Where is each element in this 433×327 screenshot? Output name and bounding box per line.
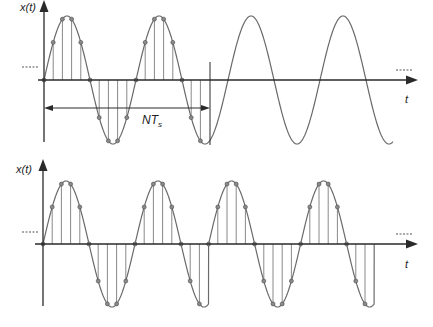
- sample-point: [171, 40, 175, 44]
- sample-point: [106, 139, 110, 143]
- window-length-label: NTs: [142, 113, 162, 129]
- sample-point: [335, 205, 339, 209]
- sample-point: [363, 302, 367, 306]
- window-label-subscript: s: [158, 120, 162, 129]
- sample-point: [262, 279, 266, 283]
- top-plot: x(t) t NTs: [19, 0, 418, 145]
- sample-point: [289, 279, 293, 283]
- sample-point: [216, 205, 220, 209]
- sample-point: [60, 17, 64, 21]
- sample-point: [125, 116, 129, 120]
- bottom-x-label: t: [405, 258, 409, 270]
- bottom-plot: x(t) t: [15, 159, 418, 307]
- sample-point: [234, 182, 238, 186]
- sample-point: [70, 17, 74, 21]
- sample-point: [51, 40, 55, 44]
- dimension-arrow-left-icon: [44, 105, 53, 111]
- sample-point: [189, 116, 193, 120]
- sample-point: [143, 40, 147, 44]
- sample-point: [142, 205, 146, 209]
- sample-point: [243, 205, 247, 209]
- sample-point: [96, 279, 100, 283]
- bottom-time-axis-arrow-icon: [406, 240, 418, 249]
- sample-point: [116, 139, 120, 143]
- bottom-y-label: x(t): [15, 163, 32, 175]
- dimension-arrow-right-icon: [201, 105, 210, 111]
- leakage-figure: x(t) t NTs x(t) t: [0, 0, 433, 327]
- sample-point: [225, 182, 229, 186]
- sample-point: [354, 279, 358, 283]
- sample-point: [78, 205, 82, 209]
- sample-point: [317, 182, 321, 186]
- sample-point: [198, 139, 202, 143]
- sample-point: [161, 182, 165, 186]
- sample-point: [59, 182, 63, 186]
- top-y-label: x(t): [19, 1, 36, 13]
- sample-point: [151, 182, 155, 186]
- sample-point: [50, 205, 54, 209]
- top-time-axis-arrow-icon: [406, 76, 418, 85]
- sample-point: [280, 302, 284, 306]
- sample-point: [97, 116, 101, 120]
- sample-point: [115, 302, 119, 306]
- sample-point: [170, 205, 174, 209]
- sample-point: [326, 182, 330, 186]
- top-amplitude-axis-arrow-icon: [40, 0, 49, 12]
- sample-point: [124, 279, 128, 283]
- sample-point: [105, 302, 109, 306]
- sample-point: [79, 40, 83, 44]
- sample-point: [69, 182, 73, 186]
- sample-point: [162, 17, 166, 21]
- sample-point: [271, 302, 275, 306]
- bottom-amplitude-axis-arrow-icon: [39, 159, 48, 171]
- sample-point: [152, 17, 156, 21]
- top-x-label: t: [405, 93, 409, 105]
- sample-point: [308, 205, 312, 209]
- sample-point: [197, 302, 201, 306]
- sample-point: [188, 279, 192, 283]
